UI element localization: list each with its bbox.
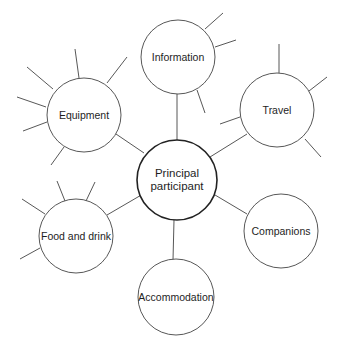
spoke-line-travel	[305, 139, 321, 157]
spoke-line-equipment	[75, 49, 79, 78]
spoke-line-equipment	[27, 67, 53, 89]
connector-line-travel	[210, 134, 247, 157]
spoke-line-food-and-drink	[20, 248, 40, 259]
connector-line-food-and-drink	[107, 194, 143, 215]
node-circle-information	[141, 20, 215, 94]
spoke-line-food-and-drink	[57, 181, 65, 201]
spoke-line-equipment	[17, 97, 46, 107]
node-circle-food-and-drink	[39, 199, 113, 273]
spoke-line-equipment	[23, 122, 47, 131]
node-circle-principal-participant	[137, 140, 217, 220]
diagram-canvas	[0, 0, 343, 350]
spoke-line-food-and-drink	[86, 182, 95, 201]
spoke-line-equipment	[51, 147, 64, 165]
spoke-line-travel	[220, 117, 240, 124]
spoke-line-equipment	[107, 57, 127, 83]
spoke-line-travel	[309, 77, 327, 91]
spoke-line-information	[215, 40, 236, 47]
spoke-line-information	[205, 13, 223, 29]
spoke-line-food-and-drink	[22, 199, 45, 214]
mind-map-diagram: Principal participant Information Equipm…	[0, 0, 343, 350]
node-circle-equipment	[47, 78, 121, 152]
node-circle-companions	[244, 194, 318, 268]
spoke-line-information	[197, 90, 205, 113]
node-circle-accommodation	[138, 259, 214, 335]
node-circle-travel	[240, 73, 314, 147]
connector-line-companions	[210, 192, 247, 214]
connector-line-accommodation	[173, 220, 174, 260]
connector-line-equipment	[116, 134, 144, 153]
node-circles	[39, 20, 318, 335]
